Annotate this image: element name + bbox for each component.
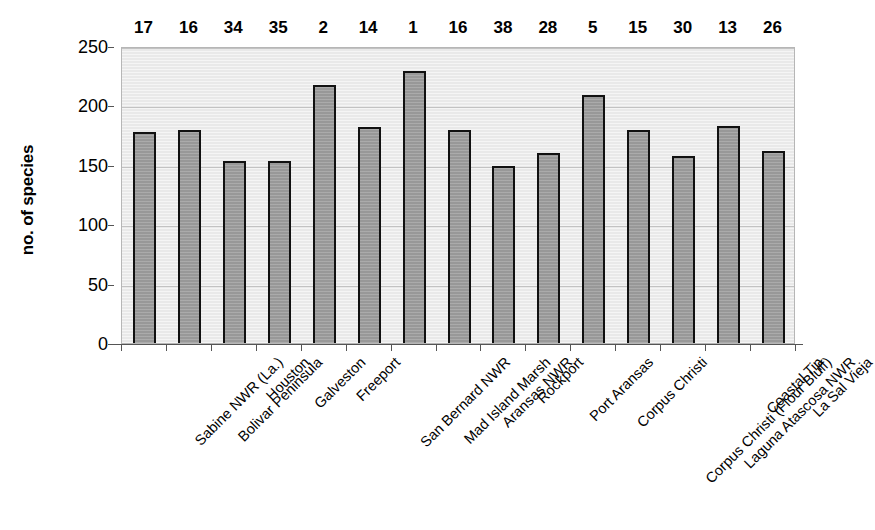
y-axis-title-text: no. of species — [18, 145, 38, 256]
bar — [268, 161, 291, 343]
bar — [448, 130, 471, 343]
bar — [717, 126, 740, 343]
y-tick-label: 100 — [78, 215, 108, 236]
bar-value-label: 30 — [673, 18, 692, 38]
bar-value-label: 5 — [588, 18, 597, 38]
y-tick-label: 150 — [78, 155, 108, 176]
y-tick-mark — [108, 106, 114, 107]
y-axis-title: no. of species — [6, 90, 50, 310]
bar-value-label: 16 — [449, 18, 468, 38]
bar — [358, 127, 381, 343]
plot-area — [121, 47, 795, 344]
bar — [582, 95, 605, 343]
bar — [627, 130, 650, 343]
bar — [223, 161, 246, 343]
bar — [762, 151, 785, 343]
bar — [133, 132, 156, 343]
bar-value-label: 2 — [318, 18, 327, 38]
bar-value-label: 28 — [538, 18, 557, 38]
y-tick-label: 200 — [78, 96, 108, 117]
x-axis-category-labels: Sabine NWR (La.)Bolivar PeninsulaHouston… — [0, 344, 823, 530]
y-tick-mark — [108, 285, 114, 286]
y-tick-mark — [108, 225, 114, 226]
bar — [178, 130, 201, 343]
bar-value-label: 14 — [359, 18, 378, 38]
bar — [672, 156, 695, 343]
y-tick-mark — [108, 47, 114, 48]
y-tick-label: 250 — [78, 37, 108, 58]
y-tick-mark — [108, 166, 114, 167]
bar — [537, 153, 560, 343]
bar — [492, 166, 515, 343]
y-tick-label: 50 — [88, 274, 108, 295]
bar-value-label: 13 — [718, 18, 737, 38]
bar — [313, 85, 336, 343]
bar-value-label: 34 — [224, 18, 243, 38]
bar-value-label: 1 — [408, 18, 417, 38]
bar-value-label: 15 — [628, 18, 647, 38]
bar-value-label: 38 — [493, 18, 512, 38]
bar — [403, 71, 426, 343]
bar-value-label: 16 — [179, 18, 198, 38]
bar-value-label: 26 — [763, 18, 782, 38]
bar-value-labels: 171634352141163828515301326 — [121, 18, 795, 46]
bar-value-label: 35 — [269, 18, 288, 38]
bars-layer — [122, 48, 794, 343]
bar-value-label: 17 — [134, 18, 153, 38]
